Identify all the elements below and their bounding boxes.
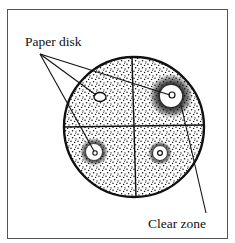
clear-zone-label: Clear zone	[148, 217, 206, 231]
disk-bottom-left	[80, 138, 108, 166]
paper-disk-label: Paper disk	[25, 35, 82, 49]
disk-top-left	[94, 93, 106, 102]
petri-plate	[64, 57, 204, 197]
disk-bottom-right	[148, 141, 172, 165]
